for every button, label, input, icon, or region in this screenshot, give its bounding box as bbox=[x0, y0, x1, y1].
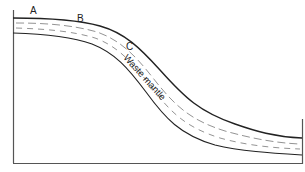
hillslope-diagram: A B C Waste mantle bbox=[0, 0, 305, 172]
label-waste-mantle: Waste mantle bbox=[122, 52, 169, 102]
label-point-a: A bbox=[30, 5, 37, 16]
label-point-b: B bbox=[77, 13, 84, 24]
label-point-c: C bbox=[126, 41, 133, 52]
